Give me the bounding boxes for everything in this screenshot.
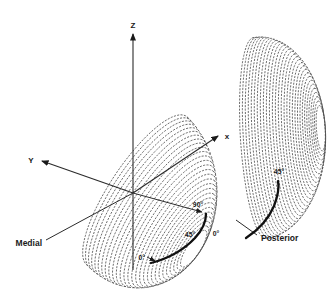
dome-contour-line — [98, 131, 203, 279]
dome-contour-line — [109, 143, 209, 284]
dome-contour-line — [251, 37, 280, 235]
right-dome-mesh — [240, 37, 326, 239]
dome-contour-line — [281, 51, 307, 212]
dome-contour-line — [167, 212, 214, 277]
dome-contour-line — [292, 63, 316, 199]
y-axis-line — [42, 161, 133, 193]
diagram-canvas: Z Y x Medial Posterior 0° 45° 90° 0° 45° — [0, 0, 329, 299]
x-axis-line — [133, 136, 218, 193]
dome-contour-line — [309, 88, 326, 169]
dome-contour-line — [316, 106, 325, 151]
left-scale-0-label: 0° — [139, 254, 146, 261]
right-dome-angle-arc — [246, 181, 279, 238]
z-axis-label: Z — [131, 21, 136, 30]
dome-contour-line — [240, 38, 268, 239]
y-axis-label: Y — [28, 156, 34, 165]
posterior-label: Posterior — [261, 233, 299, 243]
x-axis-label: x — [225, 132, 230, 141]
medial-label: Medial — [16, 238, 42, 248]
dome-contour-line — [83, 115, 189, 266]
dome-contour-line — [95, 128, 200, 277]
front-zero-label: 0° — [213, 230, 220, 237]
dome-contour-line — [284, 54, 310, 209]
left-scale-45-label: 45° — [185, 231, 196, 238]
left-dome-angle-arc — [151, 214, 206, 263]
right-scale-45-label: 45° — [274, 168, 285, 175]
left-scale-90-label: 90° — [193, 201, 204, 208]
wireframe-dome-figure: Z Y x Medial Posterior 0° 45° 90° 0° 45° — [0, 0, 329, 299]
dome-contour-line — [170, 217, 212, 275]
medial-pointer-line — [46, 193, 133, 240]
